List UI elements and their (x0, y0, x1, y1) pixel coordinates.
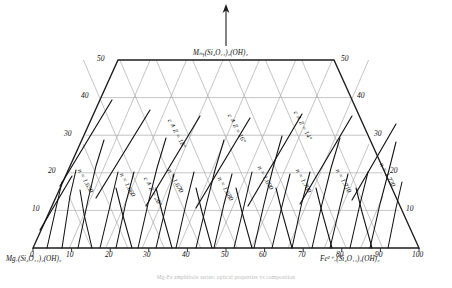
bottom-tick-20: 20 (105, 251, 113, 259)
left-tick-10: 10 (32, 205, 40, 213)
bottom-tick-50: 50 (221, 251, 229, 259)
left-tick-20: 20 (48, 167, 56, 175)
vertex-label-top: Mₘᵧ(Si₄O₁₁)₂(OH)₂ (193, 50, 248, 57)
bottom-tick-10: 10 (66, 251, 74, 259)
left-tick-50: 50 (97, 55, 105, 63)
orientation-arrow-icon (223, 4, 230, 46)
left-tick-30: 30 (64, 130, 72, 138)
bottom-tick-100: 100 (412, 251, 423, 259)
vertex-label-bottom-right: Fe²⁺₇(Si₄O₁₁)₂(OH)₂ (320, 256, 379, 263)
bottom-tick-0: 0 (30, 251, 34, 259)
figure-caption: Mg-Fe amphibole series: optical properti… (0, 274, 452, 280)
diagram-outline (33, 60, 419, 248)
left-tick-40: 40 (81, 92, 89, 100)
ternary-diagram: Mₘᵧ(Si₄O₁₁)₂(OH)₂ Mg₇(Si₄O₁₁)₂(OH)₂ Fe²⁺… (0, 0, 452, 288)
bottom-tick-80: 80 (336, 251, 344, 259)
bottom-tick-40: 40 (182, 251, 190, 259)
bottom-tick-70: 70 (298, 251, 306, 259)
bottom-tick-30: 30 (143, 251, 151, 259)
right-tick-40: 40 (357, 92, 365, 100)
bottom-tick-60: 60 (259, 251, 267, 259)
right-tick-10: 10 (406, 205, 414, 213)
diagram-canvas (0, 0, 452, 288)
right-tick-30: 30 (374, 130, 382, 138)
bottom-tick-90: 90 (375, 251, 383, 259)
right-tick-50: 50 (341, 55, 349, 63)
